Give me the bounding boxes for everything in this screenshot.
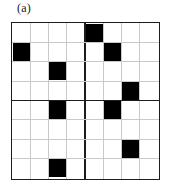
grid-cell-filled xyxy=(122,82,139,100)
grid-cell-filled xyxy=(13,43,30,61)
grid-cell-filled xyxy=(104,101,121,119)
grid-line-horizontal xyxy=(12,61,159,62)
grid-line-horizontal xyxy=(12,42,159,43)
grid-cell-filled xyxy=(49,101,66,119)
grid-cell-filled xyxy=(104,43,121,61)
panel-label: (a) xyxy=(17,1,31,15)
grid-container xyxy=(11,22,160,180)
grid-cell-filled xyxy=(86,24,103,42)
grid-cells-layer xyxy=(12,23,159,179)
grid-cell-filled xyxy=(49,159,66,177)
grid-cell-filled xyxy=(122,140,139,158)
grid-cell-filled xyxy=(49,62,66,80)
grid-divider-horizontal xyxy=(12,100,159,102)
grid-line-horizontal xyxy=(12,158,159,159)
grid-line-horizontal xyxy=(12,119,159,120)
figure-panel: (a) xyxy=(0,0,169,186)
